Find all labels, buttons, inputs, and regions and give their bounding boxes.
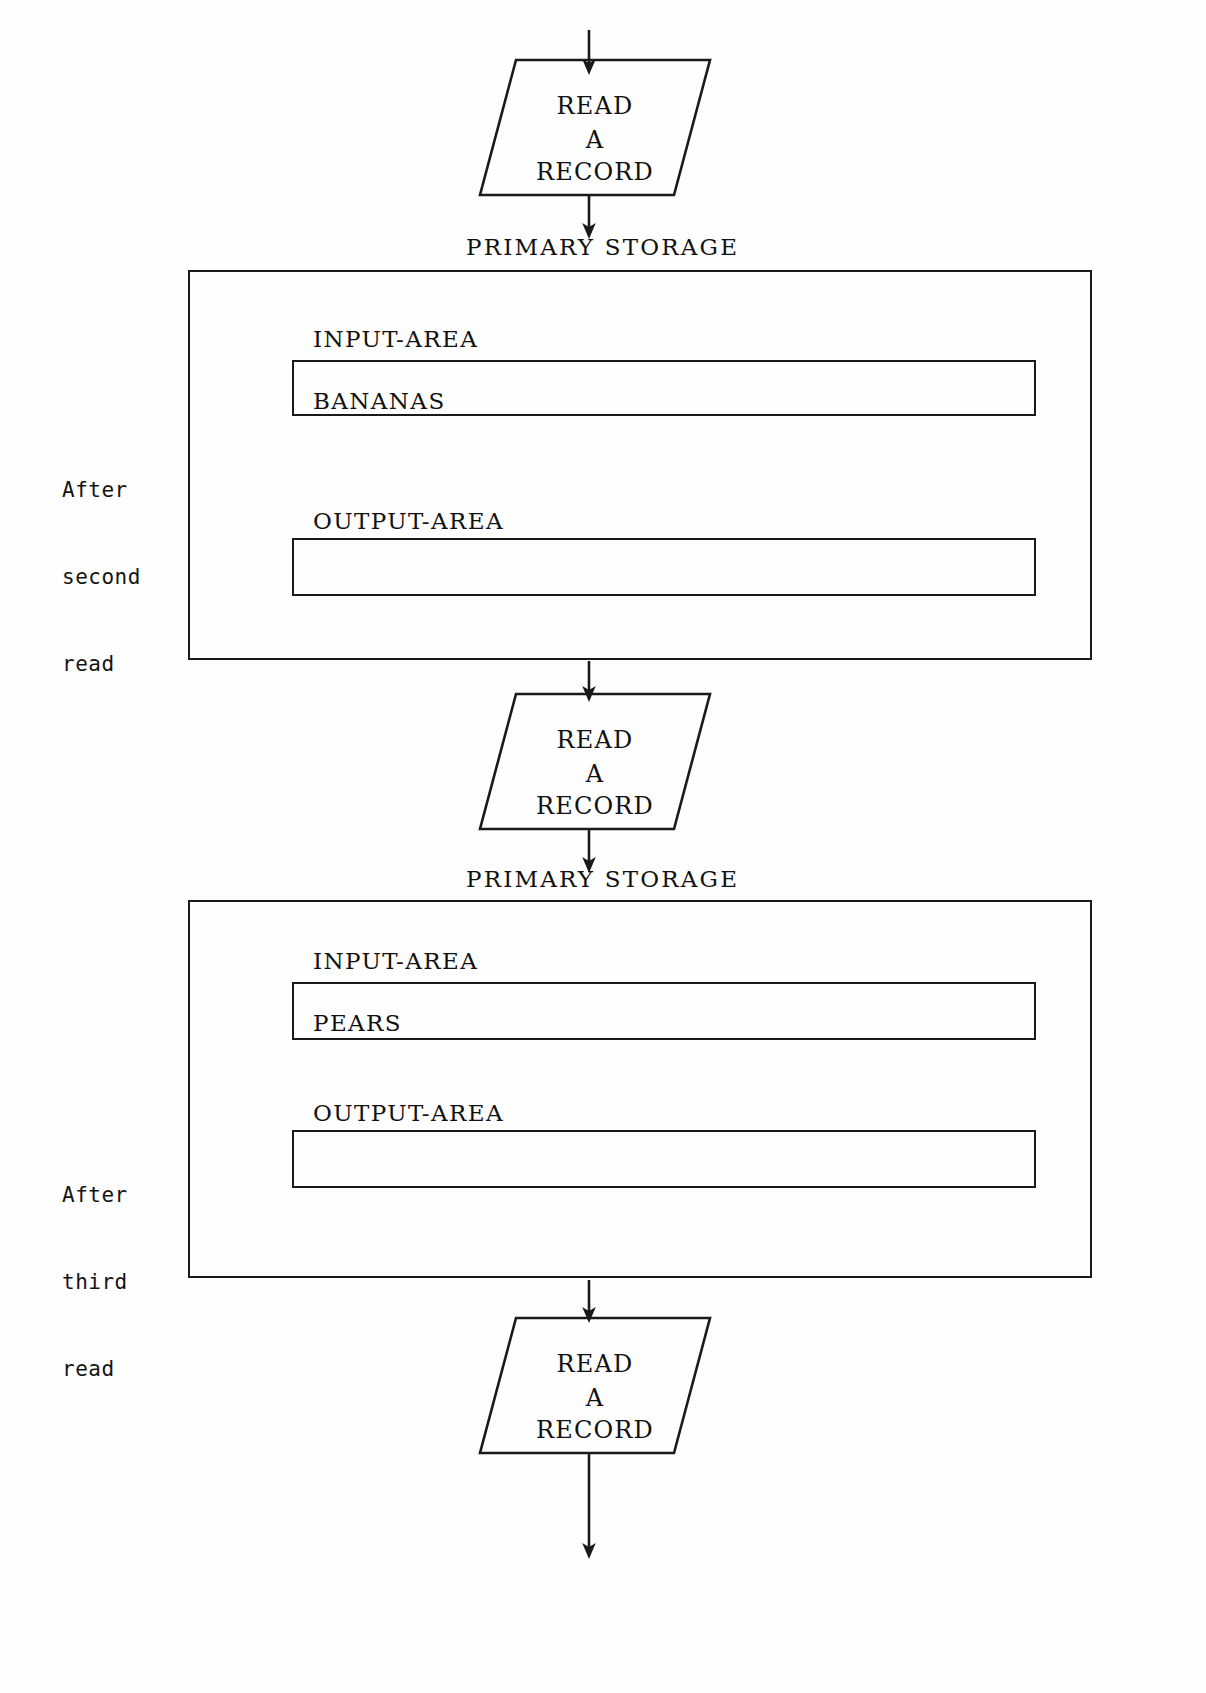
stage-caption-line2: third: [62, 1268, 128, 1297]
input-area-label-1: INPUT-AREA: [313, 326, 478, 352]
primary-storage-title-2: PRIMARY STORAGE: [466, 866, 739, 892]
output-area-label-2: OUTPUT-AREA: [313, 1100, 504, 1126]
primary-storage-title-1: PRIMARY STORAGE: [466, 234, 739, 260]
stage-caption-line1: After: [62, 1181, 128, 1210]
io-symbol-read-3: READ A RECORD: [480, 1318, 710, 1453]
output-area-field-2: [292, 1130, 1036, 1188]
output-area-field-1: [292, 538, 1036, 596]
flowchart-page: READ A RECORD PRIMARY STORAGE After seco…: [0, 0, 1206, 1693]
stage-caption-line3: read: [62, 1355, 128, 1384]
arrow-read-3-out: [576, 1454, 602, 1560]
io-symbol-read-1: READ A RECORD: [480, 60, 710, 195]
input-area-label-2: INPUT-AREA: [313, 948, 478, 974]
input-area-value-1: BANANAS: [313, 388, 446, 414]
stage-caption-after-third-read: After third read: [62, 1123, 128, 1442]
stage-caption-line2: second: [62, 563, 141, 592]
output-area-label-1: OUTPUT-AREA: [313, 508, 504, 534]
stage-caption-line1: After: [62, 476, 141, 505]
stage-caption-line3: read: [62, 650, 141, 679]
stage-caption-after-second-read: After second read: [62, 418, 141, 737]
io-symbol-read-2: READ A RECORD: [480, 694, 710, 829]
input-area-field-2: [292, 982, 1036, 1040]
input-area-value-2: PEARS: [313, 1010, 402, 1036]
